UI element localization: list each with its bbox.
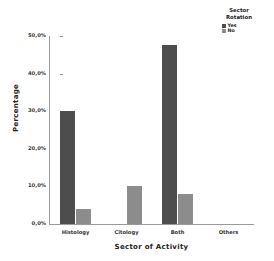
bar-histology-yes xyxy=(60,111,75,224)
y-tick-label: 10,0% xyxy=(16,183,46,188)
legend: Sector Rotation YesNo xyxy=(208,7,270,34)
bar-both-no xyxy=(178,194,193,224)
x-axis-title: Sector of Activity xyxy=(49,243,254,251)
bar-chart: Percentage 0,0%10,0%20,0%30,0%40,0%50,0%… xyxy=(0,0,274,261)
y-axis-ticks: 0,0%10,0%20,0%30,0%40,0%50,0% xyxy=(14,0,46,261)
y-tick-label: 20,0% xyxy=(16,146,46,151)
bar-both-yes xyxy=(162,45,177,224)
y-tick-label: 30,0% xyxy=(16,108,46,113)
plot-area xyxy=(50,36,254,224)
legend-label: No xyxy=(228,29,235,34)
legend-title-line-1: Sector xyxy=(208,7,270,14)
legend-swatch-icon xyxy=(222,24,226,28)
legend-swatch-icon xyxy=(222,29,226,33)
y-tick-label: 0,0% xyxy=(16,221,46,226)
legend-item[interactable]: No xyxy=(222,29,270,34)
x-category-label: Others xyxy=(199,229,259,235)
y-tick-label: 40,0% xyxy=(16,71,46,76)
legend-title-line-2: Rotation xyxy=(208,14,270,21)
bar-histology-no xyxy=(76,209,91,224)
y-tick-label: 50,0% xyxy=(16,33,46,38)
x-axis-line xyxy=(49,224,254,225)
legend-title: Sector Rotation xyxy=(208,7,270,22)
legend-entries: YesNo xyxy=(208,24,270,34)
bar-citology-no xyxy=(127,186,142,224)
